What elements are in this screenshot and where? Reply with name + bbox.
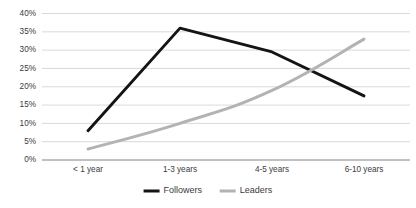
x-axis-tick-labels: < 1 year1-3 years4-5 years6-10 years bbox=[73, 165, 383, 174]
y-axis-tick-label: 40% bbox=[20, 9, 36, 18]
legend-label: Followers bbox=[164, 185, 203, 195]
y-axis-tick-label: 25% bbox=[20, 64, 36, 73]
y-axis-tick-label: 35% bbox=[20, 27, 36, 36]
y-axis-tick-label: 0% bbox=[24, 155, 36, 164]
series-line-leaders bbox=[88, 39, 364, 149]
series-layer bbox=[88, 28, 364, 149]
gridlines bbox=[42, 14, 410, 161]
legend-item-leaders[interactable]: Leaders bbox=[220, 185, 273, 195]
x-axis-tick-label: 1-3 years bbox=[163, 165, 197, 174]
legend-item-followers[interactable]: Followers bbox=[144, 185, 203, 195]
y-axis-tick-label: 10% bbox=[20, 119, 36, 128]
x-axis-tick-label: < 1 year bbox=[73, 165, 103, 174]
series-line-followers bbox=[88, 28, 364, 131]
y-axis-tick-labels: 0%5%10%15%20%25%30%35%40% bbox=[20, 9, 36, 165]
y-axis-tick-label: 5% bbox=[24, 137, 36, 146]
legend-label: Leaders bbox=[240, 185, 273, 195]
y-axis-tick-label: 20% bbox=[20, 82, 36, 91]
line-chart: 0%5%10%15%20%25%30%35%40% < 1 year1-3 ye… bbox=[0, 0, 416, 208]
y-axis-tick-label: 30% bbox=[20, 45, 36, 54]
x-axis-tick-label: 6-10 years bbox=[345, 165, 384, 174]
chart-legend: FollowersLeaders bbox=[144, 185, 273, 195]
y-axis-tick-label: 15% bbox=[20, 100, 36, 109]
chart-canvas: 0%5%10%15%20%25%30%35%40% < 1 year1-3 ye… bbox=[0, 0, 416, 208]
x-axis-tick-label: 4-5 years bbox=[255, 165, 289, 174]
